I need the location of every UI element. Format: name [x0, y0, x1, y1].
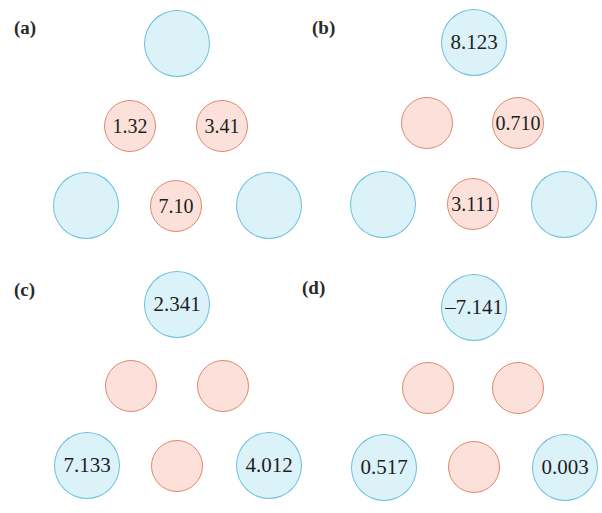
red-node-mid-right-a: 3.41 [196, 100, 248, 152]
red-node-bottom-c [151, 440, 203, 492]
red-node-mid-right-b: 0.710 [492, 97, 544, 149]
red-node-bottom-b: 3.111 [447, 178, 499, 230]
blue-node-bottom-left-b [350, 171, 416, 238]
panel-label-d: (d) [302, 278, 325, 297]
blue-node-top-c: 2.341 [144, 271, 210, 338]
blue-node-bottom-right-d: 0.003 [532, 434, 598, 501]
red-node-mid-left-a: 1.32 [104, 100, 156, 152]
red-node-mid-right-d [492, 362, 544, 414]
red-node-mid-left-d [402, 362, 454, 414]
red-node-mid-left-c [105, 360, 157, 412]
panel-label-b: (b) [312, 18, 335, 37]
panel-label-c: (c) [14, 280, 35, 299]
red-node-bottom-a: 7.10 [150, 180, 202, 232]
blue-node-bottom-left-a [53, 172, 119, 239]
red-node-mid-left-b [401, 97, 453, 149]
blue-node-bottom-left-d: 0.517 [351, 434, 417, 501]
blue-node-top-b: 8.123 [441, 9, 507, 76]
blue-node-top-a [144, 10, 210, 77]
blue-node-bottom-right-c: 4.012 [236, 432, 302, 499]
blue-node-bottom-right-a [236, 172, 302, 239]
blue-node-bottom-right-b [531, 171, 597, 238]
blue-node-top-d: –7.141 [441, 274, 507, 341]
blue-node-bottom-left-c: 7.133 [54, 432, 120, 499]
panel-label-a: (a) [14, 18, 36, 37]
red-node-mid-right-c [197, 360, 249, 412]
red-node-bottom-d [448, 441, 500, 493]
